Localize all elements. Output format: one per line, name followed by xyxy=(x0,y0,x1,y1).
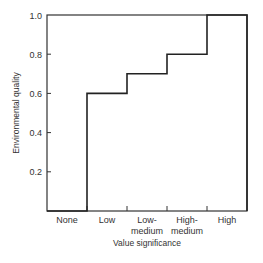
y-tick-label: 0.2 xyxy=(29,167,42,177)
y-axis-title: Environmental quality xyxy=(11,72,21,154)
step-line xyxy=(47,15,247,211)
x-category-label: None xyxy=(56,215,78,225)
y-axis-ticks: 0.20.40.60.81.0 xyxy=(29,11,51,178)
x-axis-ticks xyxy=(87,206,207,211)
step-line-path xyxy=(47,15,247,211)
x-category-label: medium xyxy=(131,226,163,236)
x-category-label: Low- xyxy=(137,215,157,225)
x-category-label: High xyxy=(218,215,237,225)
x-axis-title: Value significance xyxy=(113,238,181,248)
x-category-label: Low xyxy=(99,215,116,225)
step-chart: 0.20.40.60.81.0 NoneLowLow-mediumHigh-me… xyxy=(0,0,263,263)
x-axis-category-labels: NoneLowLow-mediumHigh-mediumHigh xyxy=(56,215,236,236)
x-category-label: High- xyxy=(176,215,198,225)
y-tick-label: 0.8 xyxy=(29,50,42,60)
y-tick-label: 1.0 xyxy=(29,11,42,21)
x-category-label: medium xyxy=(171,226,203,236)
y-tick-label: 0.4 xyxy=(29,128,42,138)
y-tick-label: 0.6 xyxy=(29,89,42,99)
plot-frame xyxy=(47,15,247,211)
